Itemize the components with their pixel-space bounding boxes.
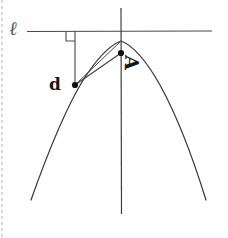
point-marker-d bbox=[72, 82, 78, 88]
parabola-curve bbox=[31, 41, 206, 200]
right-angle-marker-icon bbox=[66, 32, 75, 42]
directrix-label: ℓ bbox=[8, 19, 17, 39]
geometry-figure: ℓ d A bbox=[0, 0, 228, 238]
directrix-line bbox=[27, 31, 212, 32]
point-d-label: d bbox=[49, 76, 61, 93]
segment-d-to-vertex bbox=[75, 42, 120, 85]
segment-d-to-focus-a bbox=[75, 53, 121, 85]
figure-canvas bbox=[0, 0, 228, 238]
point-a-label: A bbox=[122, 55, 142, 70]
axis-of-symmetry-line bbox=[121, 8, 122, 214]
